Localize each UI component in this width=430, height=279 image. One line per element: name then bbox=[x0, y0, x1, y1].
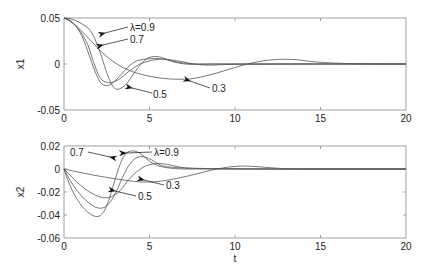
plot1-xtick-0: 0 bbox=[61, 113, 67, 124]
plot2-ytick-0: 0 bbox=[54, 164, 60, 175]
plot2-xtick-10: 10 bbox=[229, 241, 241, 252]
plot1-label-0.7: 0.7 bbox=[130, 34, 144, 45]
plot1-xtick-20: 20 bbox=[400, 113, 412, 124]
plot-x2: 0.02 0 -0.02 -0.04 -0.06 0 5 10 15 20 x2… bbox=[15, 141, 412, 264]
plot2-label-0.9: λ=0.9 bbox=[154, 147, 179, 158]
plot2-xlabel: t bbox=[234, 253, 237, 264]
plot1-label-0.3: 0.3 bbox=[212, 83, 226, 94]
plot2-label-0.5: 0.5 bbox=[138, 191, 152, 202]
plot1-ytick-top: 0.05 bbox=[41, 13, 61, 24]
plot2-ytick-0.02: 0.02 bbox=[41, 141, 61, 152]
plot2-ytick-neg0.06: -0.06 bbox=[37, 233, 60, 244]
plot2-axes-box bbox=[64, 146, 406, 238]
plot1-label-0.5: 0.5 bbox=[153, 89, 167, 100]
plot2-label-0.7: 0.7 bbox=[70, 147, 84, 158]
plot1-xtick-15: 15 bbox=[315, 113, 327, 124]
plot-x1: 0.05 0 -0.05 0 5 10 15 20 x1 λ=0.9 0.7 0… bbox=[15, 13, 412, 124]
plot2-xtick-5: 5 bbox=[147, 241, 153, 252]
plot2-ytick-neg0.02: -0.02 bbox=[37, 187, 60, 198]
plot1-ytick-mid: 0 bbox=[54, 59, 60, 70]
plot1-xtick-10: 10 bbox=[229, 113, 241, 124]
plot2-ylabel: x2 bbox=[15, 186, 26, 197]
plot2-xtick-15: 15 bbox=[315, 241, 327, 252]
plot1-xtick-5: 5 bbox=[147, 113, 153, 124]
figure: 0.05 0 -0.05 0 5 10 15 20 x1 λ=0.9 0.7 0… bbox=[0, 0, 430, 279]
plot2-label-0.3: 0.3 bbox=[166, 180, 180, 191]
plot1-label-0.9: λ=0.9 bbox=[130, 22, 155, 33]
plot2-ytick-neg0.04: -0.04 bbox=[37, 210, 60, 221]
plot1-ylabel: x1 bbox=[15, 58, 26, 69]
plot1-ytick-bottom: -0.05 bbox=[37, 105, 60, 116]
plot2-xtick-20: 20 bbox=[400, 241, 412, 252]
plot2-xtick-0: 0 bbox=[61, 241, 67, 252]
